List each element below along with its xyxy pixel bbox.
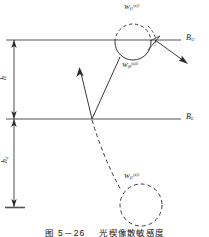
dimension-label-h2: h2 [2, 155, 8, 164]
upper-line-label: BU [186, 34, 194, 43]
diagram-artwork [0, 0, 209, 237]
ray-upper-left [81, 71, 93, 119]
figure-caption-text: 光楔像散敏感度 [99, 228, 164, 237]
figure-caption-number: 图 5－26 [45, 228, 86, 237]
lower-wavefront-circle [120, 184, 162, 226]
wedge-edge-upper [148, 36, 160, 50]
ray-deviated-arrowhead [179, 56, 188, 64]
figure-container: BU BL h h2 Wf1(a)1 Wf0(a)0 Wf2(a)1 图 5－2… [0, 0, 209, 237]
ray-lower-dashed [92, 120, 121, 190]
lower-line-label: BL [186, 113, 194, 122]
ray-deviated [155, 40, 184, 61]
ray-upper-left-arrowhead [76, 67, 83, 77]
dimension-label-h: h [2, 74, 6, 82]
upper-dashed-wavefront-label: Wf1(a)1 [124, 4, 140, 12]
upper-solid-wavefront-label: Wf0(a)0 [122, 62, 138, 70]
figure-caption: 图 5－26光楔像散敏感度 [0, 226, 209, 237]
ray-upper-right [92, 57, 120, 119]
lower-dashed-wavefront-label: Wf2(a)1 [124, 173, 140, 181]
